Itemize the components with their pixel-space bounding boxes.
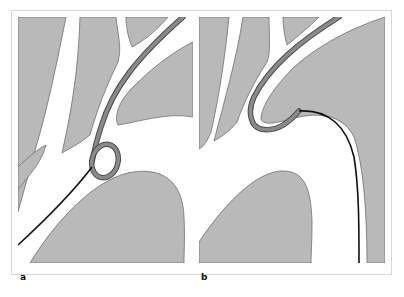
panel-b-diagram (199, 17, 385, 263)
panel-label-b: b (201, 272, 207, 282)
panel-label-a: a (20, 272, 26, 282)
panel-a-diagram (18, 17, 193, 263)
